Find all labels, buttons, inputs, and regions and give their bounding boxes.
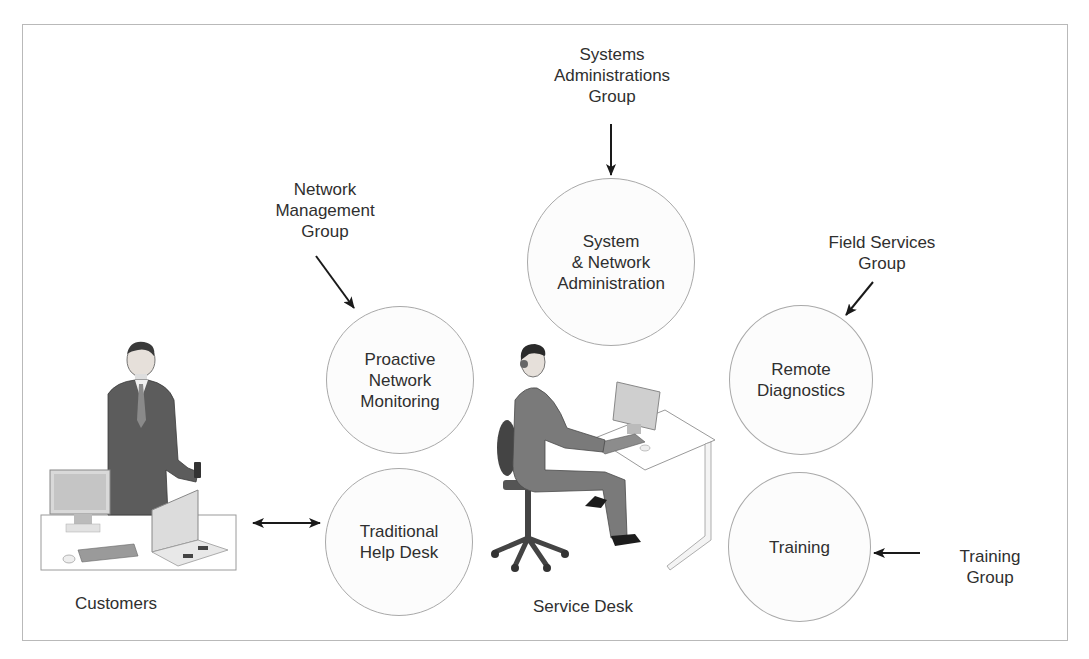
mouse-icon [640, 445, 650, 451]
headset-icon [520, 360, 528, 368]
customers-illustration [38, 340, 238, 580]
customers-label: Customers [75, 593, 157, 614]
arrow-field-services [846, 282, 873, 315]
service-desk-label: Service Desk [533, 596, 633, 617]
customer-person-icon [108, 342, 201, 515]
service-monitor-icon [613, 382, 660, 434]
service-desk-illustration [475, 340, 720, 580]
arrow-network-management [316, 256, 354, 308]
